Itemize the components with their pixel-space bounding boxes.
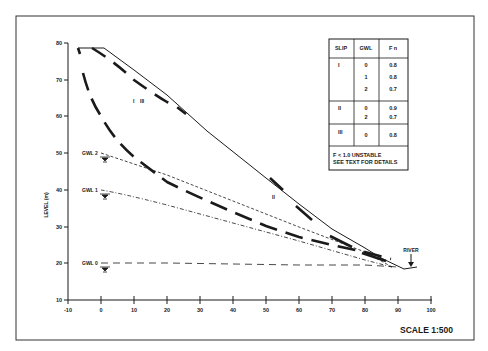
river-label: RIVER bbox=[403, 247, 419, 253]
y-axis: 10 20 30 40 50 60 70 80 LEVEL (m) bbox=[43, 40, 68, 303]
table-cell: 2 bbox=[364, 86, 367, 92]
x-tick-label: 80 bbox=[362, 307, 368, 313]
table-cell: 0.7 bbox=[389, 114, 397, 120]
table-cell: 0 bbox=[364, 105, 367, 111]
table-cell: 0.8 bbox=[389, 74, 397, 80]
x-tick-label: -10 bbox=[64, 307, 72, 313]
gwl-0-line bbox=[101, 263, 398, 267]
gwl-2-label: GWL 2 bbox=[82, 150, 98, 156]
y-tick-label: 40 bbox=[56, 187, 62, 193]
x-tick-label: 100 bbox=[426, 307, 435, 313]
table-cell: 0.8 bbox=[389, 132, 397, 138]
slope-stability-chart: 10 20 30 40 50 60 70 80 LEVEL (m) -10 0 … bbox=[0, 0, 488, 351]
gwl-0-label: GWL 0 bbox=[82, 260, 98, 266]
y-axis-title: LEVEL (m) bbox=[43, 192, 49, 218]
y-tick-label: 20 bbox=[56, 260, 62, 266]
table-cell: 2 bbox=[364, 114, 367, 120]
x-tick-label: 10 bbox=[131, 307, 137, 313]
table-cell: 0 bbox=[364, 132, 367, 138]
slip-ii-line bbox=[270, 178, 386, 261]
slip-i-label: I bbox=[133, 98, 135, 104]
table-note: F < 1.0 UNSTABLE bbox=[333, 152, 382, 158]
gwl-1-line bbox=[101, 190, 392, 267]
x-axis: -10 0 10 20 30 40 50 60 70 80 90 100 bbox=[64, 296, 436, 313]
slip-iii-line bbox=[92, 48, 186, 114]
slip-iii-label: III bbox=[140, 98, 145, 104]
table-cell: 0.7 bbox=[389, 86, 397, 92]
x-tick-label: 90 bbox=[395, 307, 401, 313]
y-tick-label: 80 bbox=[56, 40, 62, 46]
gwl-1-label: GWL 1 bbox=[82, 187, 98, 193]
table-note: SEE TEXT FOR DETAILS bbox=[333, 159, 398, 165]
x-tick-label: 40 bbox=[230, 307, 236, 313]
table-cell: 0.8 bbox=[389, 62, 397, 68]
x-tick-label: 20 bbox=[164, 307, 170, 313]
slip-ii-label: II bbox=[272, 194, 275, 200]
y-tick-label: 50 bbox=[56, 150, 62, 156]
scale-label: SCALE 1:500 bbox=[400, 325, 453, 335]
y-tick-label: 60 bbox=[56, 113, 62, 119]
x-tick-label: 60 bbox=[296, 307, 302, 313]
x-tick-label: 50 bbox=[263, 307, 269, 313]
y-tick-label: 30 bbox=[56, 224, 62, 230]
y-tick-label: 70 bbox=[56, 77, 62, 83]
table-cell: 1 bbox=[364, 74, 367, 80]
factor-of-safety-table: SLIP GWL F n I 0 0.8 1 0.8 2 0.7 II 0 0.… bbox=[329, 39, 408, 170]
arrow-down-icon bbox=[408, 262, 414, 267]
gwl-2-symbol bbox=[100, 157, 110, 162]
y-tick-label: 10 bbox=[56, 297, 62, 303]
river-marker: RIVER bbox=[403, 247, 419, 267]
gwl-0-symbol bbox=[100, 267, 110, 272]
table-header-fn: F n bbox=[389, 45, 398, 51]
x-tick-label: 0 bbox=[99, 307, 102, 313]
table-header-slip: SLIP bbox=[335, 45, 348, 51]
table-cell: III bbox=[338, 129, 343, 135]
x-tick-label: 70 bbox=[329, 307, 335, 313]
table-cell: II bbox=[338, 105, 342, 111]
x-tick-label: 30 bbox=[197, 307, 203, 313]
water-table-symbols bbox=[100, 157, 110, 272]
gwl-1-symbol bbox=[100, 194, 110, 199]
table-header-gwl: GWL bbox=[360, 45, 373, 51]
table-cell: 0 bbox=[364, 62, 367, 68]
table-cell: 0.9 bbox=[389, 105, 397, 111]
